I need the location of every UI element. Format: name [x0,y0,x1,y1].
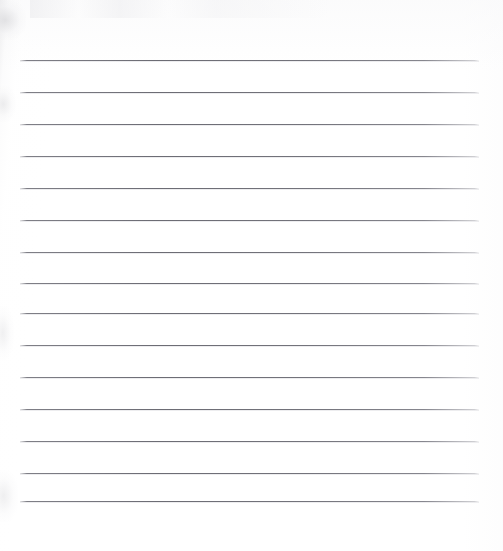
ruled-line [20,377,479,378]
ruled-line [20,283,479,284]
ruled-line [20,124,479,125]
ruled-line [20,409,479,410]
ruled-line [20,313,479,314]
ruled-line [20,501,479,502]
ruled-line [20,473,479,474]
ruled-line [20,441,479,442]
ruled-line [20,60,479,61]
ruled-lines-layer [0,0,503,551]
ruled-line [20,188,479,189]
ruled-line [20,252,479,253]
ruled-line [20,345,479,346]
ruled-line [20,220,479,221]
ruled-line [20,92,479,93]
scanned-paper-page [0,0,503,551]
ruled-line [20,156,479,157]
